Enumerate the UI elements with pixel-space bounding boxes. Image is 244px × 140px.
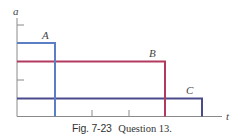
t-axis-label: t [226, 110, 230, 122]
curve-a-label: A [41, 29, 49, 41]
acceleration-time-graph: a t A B C [0, 0, 244, 140]
caption-text: Question 13. [118, 123, 172, 134]
curve-b [17, 62, 165, 117]
a-axis-label: a [13, 5, 19, 17]
curve-b-label: B [149, 47, 156, 59]
figure-caption: Fig. 7-23 Question 13. [0, 122, 244, 134]
figure-number: Fig. 7-23 [72, 122, 112, 134]
curve-c-label: C [186, 84, 194, 96]
curve-c [17, 99, 202, 117]
